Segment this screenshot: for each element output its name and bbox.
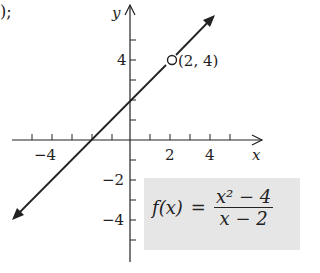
- point-label: (2, 4): [178, 52, 218, 70]
- formula-denominator: x − 2: [218, 208, 270, 229]
- y-tick-label-4: 4: [117, 51, 127, 69]
- x-tick-label-4: 4: [205, 146, 215, 164]
- formula-fraction: x² − 4 x − 2: [214, 186, 273, 229]
- y-axis-label: y: [111, 4, 121, 22]
- y-tick-label-neg4: −4: [102, 211, 124, 229]
- x-tick-label-neg4: −4: [34, 146, 56, 164]
- x-ticks: [32, 134, 230, 140]
- formula-lhs: f(x): [152, 197, 183, 218]
- formula-equals: =: [191, 197, 206, 218]
- open-circle-hole: [168, 56, 177, 65]
- x-tick-label-2: 2: [165, 146, 175, 164]
- formula: f(x) = x² − 4 x − 2: [152, 186, 273, 229]
- x-axis-label: x: [252, 146, 261, 164]
- y-tick-label-neg2: −2: [102, 171, 124, 189]
- formula-numerator: x² − 4: [214, 186, 273, 208]
